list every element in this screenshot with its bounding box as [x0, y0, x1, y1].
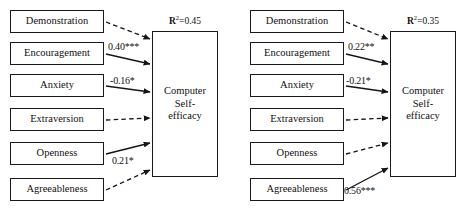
outcome-line-2: Self-: [413, 98, 433, 110]
path-encouragement-right: [346, 54, 388, 64]
predictor-label: Anxiety: [40, 80, 74, 91]
predictor-box-demonstration[interactable]: Demonstration: [10, 10, 104, 33]
outcome-line-3: efficacy: [406, 110, 440, 122]
predictor-label: Demonstration: [266, 16, 328, 27]
coefficient-anxiety: -0.21*: [346, 75, 371, 86]
path-anxiety-right: [346, 86, 388, 92]
predictor-box-anxiety[interactable]: Anxiety: [250, 74, 344, 97]
path-openness-left: [106, 143, 150, 154]
r-value: 0.45: [184, 16, 201, 26]
coefficient-encouragement: 0.22**: [348, 41, 374, 52]
predictor-box-extraversion[interactable]: Extraversion: [10, 108, 104, 131]
path-demonstration-right: [346, 22, 388, 39]
predictor-label: Demonstration: [26, 16, 88, 27]
predictor-box-demonstration[interactable]: Demonstration: [250, 10, 344, 33]
predictor-box-openness[interactable]: Openness: [10, 142, 104, 165]
r-symbol: R: [169, 16, 176, 26]
outcome-line-2: Self-: [175, 98, 195, 110]
r-symbol: R: [407, 16, 414, 26]
outcome-line-3: efficacy: [168, 110, 202, 122]
predictor-box-encouragement[interactable]: Encouragement: [250, 42, 344, 65]
predictor-box-anxiety[interactable]: Anxiety: [10, 74, 104, 97]
path-agreeableness-left: [106, 170, 150, 190]
predictor-label: Anxiety: [280, 80, 314, 91]
predictor-label: Encouragement: [264, 48, 330, 59]
predictor-box-extraversion[interactable]: Extraversion: [250, 108, 344, 131]
diagram-panel-left: Demonstration Encouragement Anxiety Extr…: [0, 0, 232, 215]
outcome-box-computer-self-efficacy[interactable]: Computer Self- efficacy: [152, 31, 218, 177]
outcome-line-1: Computer: [164, 85, 206, 97]
predictor-box-encouragement[interactable]: Encouragement: [10, 42, 104, 65]
predictor-label: Openness: [277, 148, 318, 159]
predictor-box-agreeableness[interactable]: Agreeableness: [10, 178, 104, 201]
coefficient-openness: 0.21*: [112, 155, 134, 166]
predictor-label: Agreeableness: [26, 184, 87, 195]
predictor-label: Agreeableness: [266, 184, 327, 195]
predictor-box-agreeableness[interactable]: Agreeableness: [250, 178, 344, 201]
path-extraversion-left: [106, 118, 150, 120]
path-diagram-figure: Demonstration Encouragement Anxiety Extr…: [0, 0, 464, 215]
predictor-label: Openness: [37, 148, 78, 159]
r-value: 0.35: [422, 16, 439, 26]
predictor-label: Encouragement: [24, 48, 90, 59]
predictor-label: Extraversion: [30, 114, 84, 125]
r-squared-label-left: R2=0.45: [152, 14, 218, 26]
path-encouragement-left: [106, 54, 150, 64]
predictor-label: Extraversion: [270, 114, 324, 125]
outcome-box-computer-self-efficacy[interactable]: Computer Self- efficacy: [390, 31, 456, 177]
coefficient-encouragement: 0.40***: [108, 41, 139, 52]
coefficient-agreeableness: 0.56***: [344, 185, 375, 196]
r-squared-label-right: R2=0.35: [390, 14, 456, 26]
outcome-line-1: Computer: [402, 85, 444, 97]
path-anxiety-left: [106, 86, 150, 92]
path-demonstration-left: [106, 22, 150, 39]
diagram-panel-right: Demonstration Encouragement Anxiety Extr…: [232, 0, 464, 215]
predictor-box-openness[interactable]: Openness: [250, 142, 344, 165]
path-openness-right: [346, 143, 388, 154]
path-extraversion-right: [346, 118, 388, 120]
coefficient-anxiety: -0.16*: [110, 75, 135, 86]
